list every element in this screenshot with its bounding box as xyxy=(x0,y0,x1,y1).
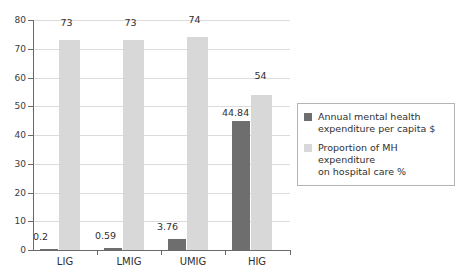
value-label-dark-hig: 44.84 xyxy=(222,108,252,118)
x-tick-mark-3 xyxy=(225,251,226,255)
legend-swatch-light xyxy=(304,144,312,152)
value-label-dark-umig: 3.76 xyxy=(157,222,187,232)
plot-area xyxy=(33,20,290,250)
value-label-dark-lig: 0.2 xyxy=(33,232,63,242)
value-label-dark-lmig: 0.59 xyxy=(95,231,125,241)
x-tick-mark-1 xyxy=(97,251,98,255)
legend-label-line1: Proportion of MH expenditure xyxy=(318,142,398,165)
value-label-light-umig: 74 xyxy=(179,15,210,25)
y-axis-line xyxy=(33,20,34,251)
y-tick-label-80: 80 xyxy=(2,16,26,25)
bar-light-umig xyxy=(187,37,208,250)
legend-label-line1: Annual mental health xyxy=(318,111,420,122)
value-label-light-lmig: 73 xyxy=(115,18,146,28)
y-tick-label-20: 20 xyxy=(2,189,26,198)
y-tick-label-10: 10 xyxy=(2,217,26,226)
x-tick-mark-2 xyxy=(161,251,162,255)
legend-item-hospital-proportion: Proportion of MH expenditure on hospital… xyxy=(304,142,447,178)
y-tick-label-0: 0 xyxy=(2,246,26,255)
x-tick-label-lmig: LMIG xyxy=(99,256,159,268)
x-axis-line xyxy=(33,250,291,251)
y-tick-label-50: 50 xyxy=(2,102,26,111)
y-axis-labels: 80 70 60 50 40 30 20 10 0 xyxy=(0,0,26,275)
legend-swatch-dark xyxy=(304,113,312,121)
legend-label-line2: expenditure per capita $ xyxy=(318,123,435,134)
x-tick-label-lig: LIG xyxy=(35,256,95,268)
bar-dark-hig xyxy=(232,121,250,250)
bar-light-hig xyxy=(251,95,272,250)
x-tick-label-umig: UMIG xyxy=(163,256,223,268)
legend-label-annual-expenditure: Annual mental health expenditure per cap… xyxy=(318,111,435,135)
value-label-light-lig: 73 xyxy=(51,18,82,28)
legend-label-hospital-proportion: Proportion of MH expenditure on hospital… xyxy=(318,142,447,178)
value-label-light-hig: 54 xyxy=(245,71,276,81)
y-tick-label-70: 70 xyxy=(2,45,26,54)
legend-item-annual-expenditure: Annual mental health expenditure per cap… xyxy=(304,111,447,135)
bar-light-lmig xyxy=(123,40,144,250)
x-tick-label-hig: HIG xyxy=(227,256,287,268)
y-tick-label-60: 60 xyxy=(2,74,26,83)
legend-label-line2: on hospital care % xyxy=(318,166,406,177)
y-tick-label-30: 30 xyxy=(2,160,26,169)
y-tick-label-40: 40 xyxy=(2,131,26,140)
bar-chart: 80 70 60 50 40 30 20 10 0 xyxy=(0,0,470,275)
bar-dark-umig xyxy=(168,239,186,250)
bar-light-lig xyxy=(59,40,80,250)
x-tick-mark-4 xyxy=(290,251,291,255)
chart-legend: Annual mental health expenditure per cap… xyxy=(297,103,455,186)
